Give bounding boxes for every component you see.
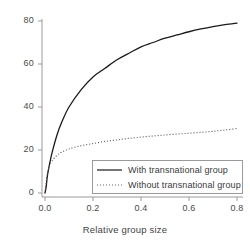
y-axis-ticks — [38, 21, 42, 193]
y-tick-label: 60 — [6, 58, 34, 68]
legend: With transnational group Without transna… — [92, 160, 243, 194]
x-axis-ticks — [45, 197, 237, 201]
x-tick-label: 0.0 — [30, 203, 60, 213]
x-tick-label: 0.4 — [126, 203, 156, 213]
x-tick-label: 0.8 — [222, 203, 250, 213]
chart-container: 020406080 0.00.20.40.60.8 Relative group… — [0, 0, 250, 243]
legend-label: With transnational group — [128, 165, 228, 175]
legend-label: Without transnational group — [128, 180, 241, 190]
x-tick-label: 0.2 — [78, 203, 108, 213]
y-tick-label: 20 — [6, 144, 34, 154]
legend-item-with-transnational-group[interactable]: With transnational group — [97, 162, 228, 177]
y-tick-label: 80 — [6, 15, 34, 25]
y-tick-label: 40 — [6, 101, 34, 111]
legend-solid-line-swatch — [97, 165, 122, 175]
y-tick-label: 0 — [6, 187, 34, 197]
x-tick-label: 0.6 — [174, 203, 204, 213]
legend-dotted-line-swatch — [97, 180, 122, 190]
x-axis-title: Relative group size — [0, 224, 250, 235]
legend-item-without-transnational-group[interactable]: Without transnational group — [97, 177, 241, 192]
